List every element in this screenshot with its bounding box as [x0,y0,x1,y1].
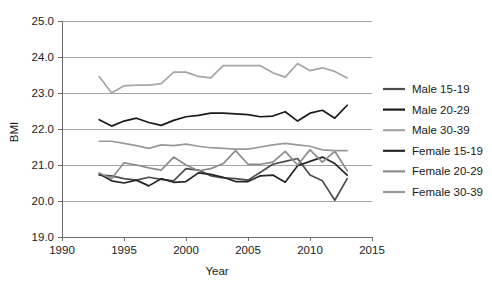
legend-label-male-15-19[interactable]: Male 15-19 [412,83,470,95]
series-lines [99,63,347,200]
y-tick-label: 20.0 [32,195,54,207]
x-tick-label: 2015 [359,244,385,256]
y-tick-label: 24.0 [32,51,54,63]
legend-label-female-30-39[interactable]: Female 30-39 [412,186,483,198]
gridlines [62,21,372,237]
x-tick-label: 1995 [111,244,137,256]
x-tick-label: 2010 [297,244,323,256]
x-tick-label: 1990 [49,244,75,256]
legend-label-male-30-39[interactable]: Male 30-39 [412,124,470,136]
series-line-male-20-29 [99,105,347,126]
y-tick-label: 21.0 [32,159,54,171]
legend-label-female-15-19[interactable]: Female 15-19 [412,145,483,157]
y-tick-label: 19.0 [32,231,54,243]
legend: Male 15-19Male 20-29Male 30-39Female 15-… [383,83,483,198]
y-tick-label: 25.0 [32,15,54,27]
series-line-female-15-19 [99,157,347,186]
x-tick-label: 2005 [235,244,261,256]
chart-canvas: 19.020.021.022.023.024.025.0 19901995200… [0,0,492,289]
y-axis [58,21,62,237]
x-axis [62,237,372,241]
bmi-trend-chart: 19.020.021.022.023.024.025.0 19901995200… [0,0,492,289]
x-tick-label: 2000 [173,244,199,256]
legend-label-male-20-29[interactable]: Male 20-29 [412,104,470,116]
y-tick-label: 23.0 [32,87,54,99]
x-axis-title: Year [205,265,228,277]
y-tick-label: 22.0 [32,123,54,135]
y-tick-labels: 19.020.021.022.023.024.025.0 [32,15,54,243]
legend-label-female-20-29[interactable]: Female 20-29 [412,165,483,177]
y-axis-title: BMI [8,122,20,142]
series-line-male-30-39 [99,63,347,93]
x-tick-labels: 199019952000200520102015 [49,244,385,256]
